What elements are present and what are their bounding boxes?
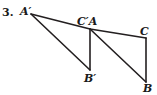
triangle-a-c-b xyxy=(90,29,146,82)
vertex-label-a-prime: A′ xyxy=(20,6,31,17)
geometry-figure-panel: 3. A′ C′A C B′ B xyxy=(0,0,157,95)
vertex-label-b-prime: B′ xyxy=(84,73,96,84)
vertex-label-c: C xyxy=(140,26,149,37)
item-number-label: 3. xyxy=(2,7,13,18)
vertex-label-b: B xyxy=(143,83,152,94)
vertex-label-c-prime-a: C′A xyxy=(77,16,97,27)
